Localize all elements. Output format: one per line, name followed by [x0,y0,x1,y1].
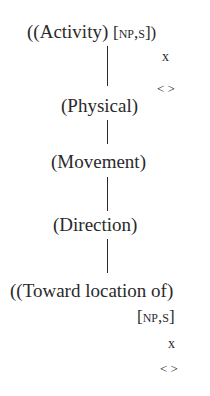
activity-label: ((Activity) [27,21,108,42]
node-activity: ((Activity) [np,s]) [27,22,156,41]
node-physical: (Physical) [61,96,138,115]
annotation-x-bottom: x [168,337,175,351]
edge-physical-movement [107,120,108,144]
node-toward-location: ((Toward location of) [10,281,173,300]
node-movement: (Movement) [51,152,146,171]
edge-activity-physical [107,46,108,86]
annotation-angle-top: < > [157,82,175,95]
annotation-angle-bottom: < > [160,362,178,375]
edge-movement-direction [107,177,108,211]
toward-feature: [np,s] [137,308,175,325]
activity-feature: [np,s]) [113,23,156,42]
annotation-x-top: x [162,50,169,64]
node-direction: (Direction) [53,215,137,234]
edge-direction-toward [107,239,108,273]
